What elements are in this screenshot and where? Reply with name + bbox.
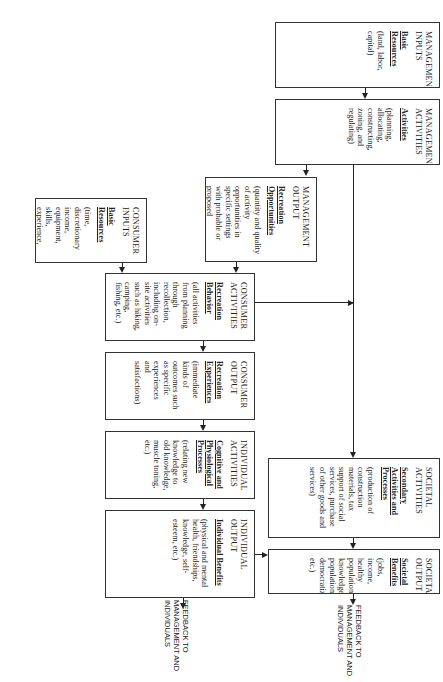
box-title: CONSUMER INPUTS bbox=[121, 207, 140, 256]
box-title: INDIVIDUAL ACTIVITIES bbox=[229, 440, 248, 492]
box-title: MANAGEMENT ACTIVITIES bbox=[414, 108, 433, 158]
box-subtitle: Secondary Activities and Processes bbox=[380, 467, 409, 531]
box-description: (quantity and quality of activity opport… bbox=[205, 186, 262, 255]
box-consumer-inputs: CONSUMER INPUTS Basic Resources (time, d… bbox=[35, 198, 147, 263]
connector-to-societal bbox=[255, 302, 353, 303]
box-title: INDIVIDUAL OUTPUT bbox=[229, 519, 248, 591]
box-description: (jobs, income, healthy population, knowl… bbox=[308, 558, 385, 587]
box-title: SOCIETAL OUTPUT bbox=[414, 558, 433, 587]
box-consumer-output: CONSUMER OUTPUT Recreation Experiences (… bbox=[105, 352, 255, 420]
feedback-label-societal: FEEDBACK TO MANAGEMENT AND INDIVIDUALS bbox=[336, 605, 363, 682]
box-management-inputs: MANAGEMENT INPUTS Basic Resources (land,… bbox=[275, 22, 440, 88]
box-subtitle: Activities bbox=[399, 108, 409, 158]
box-societal-output: SOCIETAL OUTPUT Societal Benefits (jobs,… bbox=[268, 549, 440, 594]
box-subtitle: Recreation Experiences bbox=[205, 361, 224, 413]
box-description: (time, discretionary income, equipment, … bbox=[35, 207, 92, 256]
box-title: CONSUMER OUTPUT bbox=[229, 361, 248, 413]
connector-to-societal bbox=[353, 165, 354, 455]
box-title: MANAGEMENT INPUTS bbox=[414, 31, 433, 81]
box-subtitle: Basic Resources bbox=[97, 207, 116, 256]
box-individual-output: INDIVIDUAL OUTPUT Individual Benefits (p… bbox=[105, 510, 255, 598]
box-description: (all activities from planning through re… bbox=[113, 282, 199, 334]
box-subtitle: Societal Benefits bbox=[390, 558, 409, 587]
box-title: SOCIETAL ACTIVITIES bbox=[414, 467, 433, 531]
box-consumer-activities: CONSUMER ACTIVITIES Recreation Behavior … bbox=[105, 273, 255, 341]
box-subtitle: Individual Benefits bbox=[214, 519, 224, 591]
box-title: MANAGEMENT OUTPUT bbox=[291, 186, 310, 255]
box-individual-activities: INDIVIDUAL ACTIVITIES Cognitive and Phys… bbox=[105, 431, 255, 499]
box-management-output: MANAGEMENT OUTPUT Recreation Opportuniti… bbox=[205, 177, 317, 262]
box-description: (planning, allocating, constructing, zon… bbox=[346, 108, 394, 158]
box-description: (immediate kinds of outcomes such as spe… bbox=[132, 361, 199, 413]
box-description: (production of construction materials, t… bbox=[308, 467, 375, 531]
box-societal-activities: SOCIETAL ACTIVITIES Secondary Activities… bbox=[268, 458, 440, 538]
box-description: (physical and mental health, friendships… bbox=[171, 519, 209, 591]
arrow-icon bbox=[303, 170, 309, 176]
box-subtitle: Recreation Opportunities bbox=[267, 186, 286, 255]
box-description: (land, labor, capital) bbox=[365, 31, 384, 81]
arrow-icon bbox=[348, 300, 354, 306]
box-description: (relating new knowledge to old knowledge… bbox=[142, 440, 190, 492]
box-subtitle: Basic Resources bbox=[390, 31, 409, 81]
box-subtitle: Recreation Behavior bbox=[205, 282, 224, 334]
box-title: CONSUMER ACTIVITIES bbox=[229, 282, 248, 334]
box-management-activities: MANAGEMENT ACTIVITIES Activities (planni… bbox=[275, 99, 440, 165]
feedback-label-individual: FEEDBACK TO MANAGEMENT AND INDIVIDUALS bbox=[163, 600, 190, 680]
box-subtitle: Cognitive and Physiological Processes bbox=[195, 440, 224, 492]
